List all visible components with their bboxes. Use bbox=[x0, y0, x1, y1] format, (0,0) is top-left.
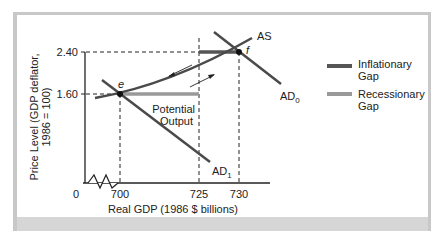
axis-break bbox=[88, 175, 118, 188]
label-ad1: AD1 bbox=[212, 165, 232, 180]
potential-output-label-1: Potential bbox=[152, 103, 195, 115]
legend-inflationary-1: Inflationary bbox=[358, 58, 412, 70]
label-ad0: AD0 bbox=[280, 90, 300, 105]
x-tick-700: 700 bbox=[111, 188, 129, 200]
y-axis-label-1: Price Level (GDP deflator, bbox=[28, 54, 40, 181]
legend-inflationary-2: Gap bbox=[358, 70, 379, 82]
y-tick-160: 1.60 bbox=[57, 88, 78, 100]
legend-recessionary-2: Gap bbox=[358, 100, 379, 112]
arrow-right-icon bbox=[208, 74, 215, 79]
x-tick-0: 0 bbox=[73, 188, 79, 200]
x-tick-725: 725 bbox=[190, 188, 208, 200]
x-axis-label: Real GDP (1986 $ billions) bbox=[108, 203, 238, 215]
chart-svg: 2.40 1.60 0 700 725 730 e f AS AD0 AD1 P… bbox=[0, 0, 436, 231]
label-f: f bbox=[246, 44, 250, 56]
legend-recessionary-1: Recessionary bbox=[358, 88, 425, 100]
point-e bbox=[117, 91, 123, 97]
potential-output-label-2: Output bbox=[160, 115, 193, 127]
point-f bbox=[236, 49, 242, 55]
y-tick-240: 2.40 bbox=[57, 46, 78, 58]
y-axis-label-2: 1986 = 100) bbox=[40, 87, 52, 146]
label-as: AS bbox=[257, 30, 272, 42]
x-tick-730: 730 bbox=[230, 188, 248, 200]
label-e: e bbox=[118, 78, 124, 90]
